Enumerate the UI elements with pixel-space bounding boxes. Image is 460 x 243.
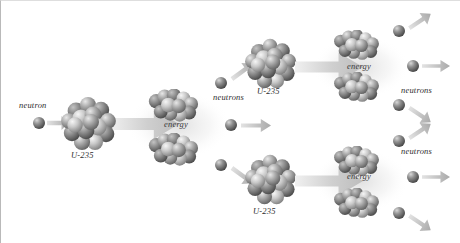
fission-diagram: neutron U-235 energy neutrons U-235 U-23… bbox=[0, 0, 460, 243]
nucleus-u235-gen1 bbox=[61, 97, 116, 150]
neutron-track-gen1-mid bbox=[225, 119, 271, 132]
neutron-track-gen2-bot-down bbox=[393, 207, 435, 236]
neutron-track-gen2-top-mid bbox=[407, 60, 450, 72]
nucleus-u235-gen2-top bbox=[245, 39, 296, 89]
neutron-track-gen2-top-up bbox=[393, 8, 435, 37]
fission-illustration bbox=[1, 1, 460, 243]
neutron-track-gen2-bot-mid bbox=[407, 171, 450, 183]
neutron-incident bbox=[33, 117, 45, 129]
nucleus-u235-gen2-bottom bbox=[245, 155, 296, 205]
fission-fragment-gen2-top-upper bbox=[334, 29, 379, 59]
